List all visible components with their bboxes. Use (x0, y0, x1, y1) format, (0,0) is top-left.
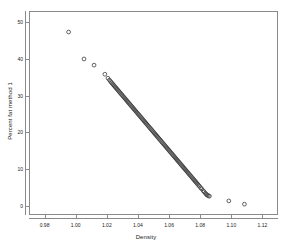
x-tick-mark (200, 215, 201, 219)
y-tick-label: 40 (0, 56, 23, 62)
data-point (92, 63, 96, 67)
y-tick-mark (25, 132, 29, 133)
x-tick-mark (169, 215, 170, 219)
scatter-chart: 0.981.001.021.041.061.081.101.12 0102030… (0, 0, 292, 250)
plot-panel (29, 11, 278, 215)
y-axis-title: Percent fat method 1 (7, 63, 13, 159)
data-points-layer (30, 12, 277, 214)
x-tick-label: 1.06 (164, 222, 174, 228)
y-tick-mark (25, 96, 29, 97)
y-tick-label: 50 (0, 19, 23, 25)
x-tick-label: 1.12 (258, 222, 268, 228)
y-tick-label-wrap: 40 (0, 56, 23, 62)
data-point (227, 199, 231, 203)
x-axis-title: Density (0, 234, 292, 240)
y-tick-mark (25, 59, 29, 60)
y-axis-line (25, 11, 26, 215)
x-tick-label: 1.04 (133, 222, 143, 228)
data-point (103, 72, 107, 76)
data-point (243, 202, 247, 206)
x-tick-label: 1.00 (71, 222, 81, 228)
y-tick-label: 0 (0, 203, 23, 209)
x-tick-mark (107, 215, 108, 219)
y-tick-mark (25, 206, 29, 207)
x-tick-mark (76, 215, 77, 219)
x-tick-mark (138, 215, 139, 219)
y-tick-label: 10 (0, 166, 23, 172)
x-tick-label: 0.98 (40, 222, 50, 228)
y-tick-mark (25, 169, 29, 170)
data-point (82, 57, 86, 61)
x-tick-mark (262, 215, 263, 219)
x-tick-mark (45, 215, 46, 219)
x-axis-line (29, 218, 278, 219)
y-tick-label-wrap: 50 (0, 19, 23, 25)
x-tick-label: 1.08 (195, 222, 205, 228)
y-tick-mark (25, 22, 29, 23)
y-tick-label-wrap: 10 (0, 166, 23, 172)
data-point (67, 30, 71, 34)
x-tick-label: 1.02 (102, 222, 112, 228)
x-tick-label: 1.10 (226, 222, 236, 228)
y-tick-label-wrap: 0 (0, 203, 23, 209)
x-tick-mark (231, 215, 232, 219)
